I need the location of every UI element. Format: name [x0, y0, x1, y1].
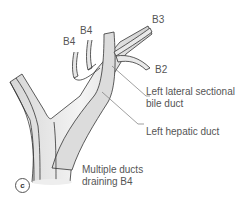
label-left-lateral-1: Left lateral sectional [146, 86, 235, 98]
label-left-lateral-2: bile duct [146, 98, 183, 110]
common-duct [10, 26, 152, 182]
label-b3: B3 [152, 14, 164, 26]
panel-label-badge: c [15, 178, 30, 193]
b2-duct [116, 56, 150, 71]
b4-left-duct [73, 52, 79, 78]
label-multiple-ducts-1: Multiple ducts [82, 164, 143, 176]
label-multiple-ducts-2: draining B4 [82, 176, 133, 188]
label-b4-left: B4 [63, 36, 75, 48]
leader-left-lateral [112, 66, 150, 96]
label-b4-right: B4 [80, 25, 92, 37]
label-left-hepatic: Left hepatic duct [146, 126, 219, 138]
b4-right-duct [87, 40, 93, 70]
label-b2: B2 [155, 64, 167, 76]
trunk-base [32, 179, 72, 185]
